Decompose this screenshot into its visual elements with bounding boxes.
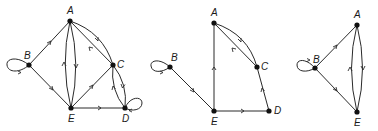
svg-text:B: B bbox=[24, 50, 31, 61]
svg-text:C: C bbox=[261, 61, 269, 72]
svg-text:D: D bbox=[274, 105, 281, 116]
svg-text:C: C bbox=[117, 59, 125, 70]
node-c: C bbox=[254, 61, 269, 72]
arrowhead bbox=[95, 37, 98, 41]
edge-b-e bbox=[29, 65, 71, 108]
arrowhead bbox=[232, 48, 236, 52]
svg-text:E: E bbox=[354, 117, 361, 128]
node-a: A bbox=[210, 7, 218, 26]
edge-e-a bbox=[352, 25, 358, 112]
svg-text:E: E bbox=[68, 113, 75, 124]
node-b: B bbox=[24, 50, 32, 68]
edge-b-e bbox=[170, 67, 214, 111]
arrowhead bbox=[18, 71, 21, 74]
edge-b-a bbox=[29, 21, 70, 65]
svg-text:D: D bbox=[122, 113, 129, 124]
svg-text:E: E bbox=[211, 116, 218, 127]
svg-text:A: A bbox=[66, 5, 74, 16]
node-d: D bbox=[266, 105, 281, 116]
node-e: E bbox=[354, 109, 361, 128]
node-a: A bbox=[353, 9, 361, 28]
edge-a-e bbox=[70, 21, 76, 108]
node-b: B bbox=[167, 52, 178, 70]
svg-text:B: B bbox=[313, 54, 320, 65]
edge-b-a bbox=[315, 25, 357, 68]
arrowhead bbox=[160, 71, 163, 74]
graph-3: A B E bbox=[297, 9, 365, 128]
arrowhead bbox=[307, 59, 310, 62]
edge-e-c bbox=[71, 65, 113, 108]
node-b: B bbox=[312, 54, 320, 71]
graph-diagram: A B C D E bbox=[0, 0, 378, 131]
edge-c-a bbox=[214, 23, 257, 67]
arrowhead bbox=[238, 38, 241, 42]
svg-text:A: A bbox=[353, 9, 361, 20]
svg-text:B: B bbox=[171, 52, 178, 63]
edge-e-a bbox=[65, 21, 71, 108]
node-d: D bbox=[122, 105, 129, 124]
arrowhead bbox=[89, 47, 93, 51]
graph-2: A B C D E bbox=[151, 7, 281, 127]
edge-a-e bbox=[357, 25, 363, 112]
node-a: A bbox=[66, 5, 74, 24]
edge-c-a bbox=[70, 21, 113, 65]
svg-text:A: A bbox=[210, 7, 218, 18]
graph-1: A B C D E bbox=[7, 5, 142, 124]
edge-b-b-loop bbox=[151, 61, 170, 72]
